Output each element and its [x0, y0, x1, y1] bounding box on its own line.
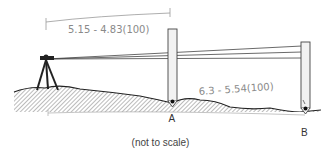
rod-b — [301, 42, 310, 114]
top-annotation: 5.15 - 4.83(100) — [68, 24, 149, 35]
level-instrument-icon — [37, 55, 58, 91]
leveling-diagram: 5.15 - 4.83(100) A B 6.3 - — [0, 0, 321, 160]
caption: (not to scale) — [0, 137, 321, 148]
rod-a — [168, 29, 177, 107]
top-distance-dimension: 5.15 - 4.83(100) — [46, 8, 170, 35]
ground-profile — [14, 86, 321, 120]
bottom-annotation: 6.3 - 5.54(100) — [198, 81, 274, 97]
point-a-label: A — [169, 113, 176, 124]
